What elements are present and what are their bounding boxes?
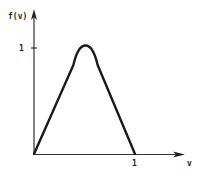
x-axis-label: v	[187, 160, 192, 168]
y-axis-label: f(v)	[8, 13, 27, 21]
chart-canvas	[0, 0, 202, 178]
x-tick-label-1: 1	[132, 160, 137, 168]
data-curve	[34, 45, 135, 154]
y-tick-label-1: 1	[19, 45, 24, 53]
